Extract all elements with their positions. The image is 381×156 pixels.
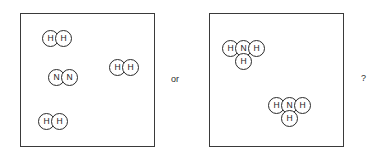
or-separator-text: or [171, 74, 179, 85]
diagram-canvas: HHNNHHHHHNHHHNHHor? [0, 0, 381, 156]
atom-h: H [235, 53, 252, 70]
atom-h: H [55, 30, 72, 47]
atom-h: H [248, 40, 265, 57]
question-mark-text: ? [361, 73, 366, 84]
atom-h: H [281, 110, 298, 127]
atom-h: H [51, 113, 68, 130]
atom-h: H [122, 59, 139, 76]
reactants-box: HHNNHHHH [20, 13, 155, 147]
atom-h: H [294, 97, 311, 114]
products-box: HNHHHNHH [209, 13, 344, 147]
atom-n: N [61, 69, 78, 86]
